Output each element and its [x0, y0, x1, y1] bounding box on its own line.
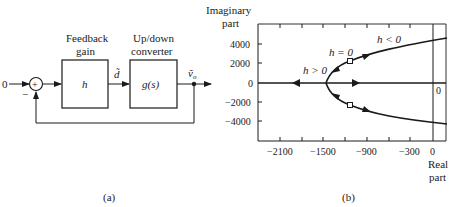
summer-plus: + — [32, 79, 38, 90]
figure-canvas: 0 − + Feedback gain h d̃ Up/down convert… — [0, 0, 454, 207]
converter-content: g(s) — [142, 78, 159, 91]
x-axis-label-2: part — [429, 171, 446, 183]
arrow-left-icon — [292, 79, 300, 87]
x-axis-label-1: Real — [428, 158, 448, 170]
locus-lower-branch — [326, 83, 447, 124]
x-tick-0: 0 — [430, 146, 435, 157]
caption-a: (a) — [103, 191, 116, 204]
annotation-h-negative: h < 0 — [377, 33, 401, 45]
arrow-upper-outward-icon — [362, 54, 371, 60]
x-tick-neg1500: −1500 — [310, 146, 336, 157]
converter-title-1: Up/down — [133, 32, 174, 44]
signal-d-label: d̃ — [114, 68, 120, 80]
y-tick-neg4000: −4000 — [225, 116, 251, 127]
pole-marker-upper — [348, 59, 353, 64]
input-label: 0 — [2, 78, 8, 90]
annotation-h-positive: h > 0 — [303, 64, 327, 76]
root-locus-plot: Imaginary part 4000 2000 0 −2000 −4000 — [206, 4, 448, 204]
pole-marker-lower — [348, 103, 353, 108]
y-tick-4000: 4000 — [230, 39, 250, 50]
x-tick-neg300: −300 — [399, 146, 420, 157]
feedback-gain-content: h — [82, 78, 88, 90]
arrow-lower-outward-icon — [362, 106, 371, 112]
minus-sign: − — [22, 88, 28, 100]
y-tick-2000: 2000 — [230, 58, 250, 69]
feedback-gain-title-1: Feedback — [66, 32, 109, 44]
x-tick-neg900: −900 — [356, 146, 377, 157]
y-tick-0: 0 — [248, 78, 253, 89]
output-label: ṽo — [188, 67, 197, 81]
block-diagram: 0 − + Feedback gain h d̃ Up/down convert… — [2, 32, 211, 204]
zero-marker-label: 0 — [436, 85, 441, 96]
arrow-right-icon — [352, 79, 360, 87]
x-tick-neg2100: −2100 — [267, 146, 293, 157]
annotation-h-zero: h = 0 — [329, 46, 353, 58]
y-axis-label-2: part — [222, 17, 239, 29]
converter-title-2: converter — [131, 45, 173, 57]
caption-b: (b) — [342, 191, 355, 204]
feedback-gain-title-2: gain — [76, 45, 95, 57]
y-axis-label-1: Imaginary — [206, 4, 252, 16]
y-tick-neg2000: −2000 — [225, 97, 251, 108]
feedback-path — [36, 84, 194, 123]
